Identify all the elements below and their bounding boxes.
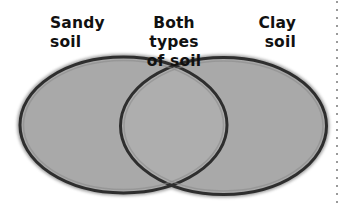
sandy-soil-label-line2: soil (50, 33, 105, 52)
clay-soil-label: Clay soil (250, 14, 296, 52)
clay-soil-label-line2: soil (250, 33, 296, 52)
both-types-label-line1: Both types (128, 14, 220, 52)
sandy-soil-label: Sandy soil (50, 14, 105, 52)
both-types-label-line2: of soil (128, 52, 220, 71)
venn-diagram-stage: Sandy soil Both types of soil Clay soil (0, 0, 347, 204)
both-types-label: Both types of soil (128, 14, 220, 71)
dotted-divider (336, 0, 338, 204)
sandy-soil-label-line1: Sandy (50, 14, 105, 33)
clay-soil-label-line1: Clay (250, 14, 296, 33)
